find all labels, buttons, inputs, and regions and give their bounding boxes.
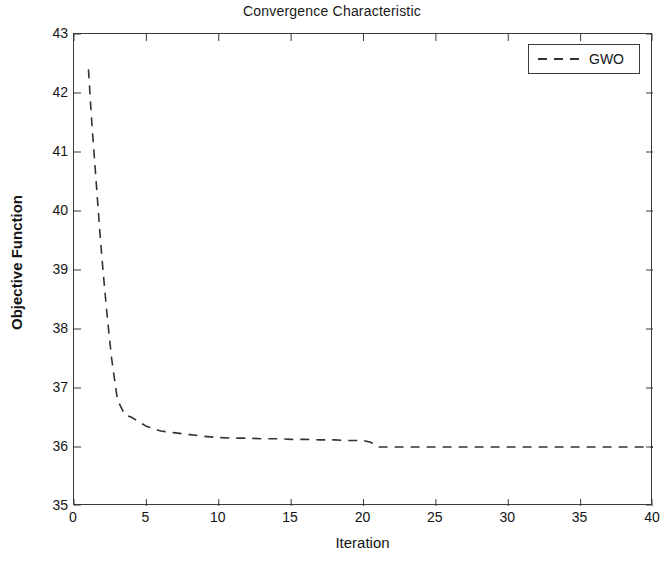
x-tick-label: 30 [485,510,529,524]
legend-line-sample-icon [537,53,583,65]
plot-canvas [74,34,653,506]
y-tick-label: 42 [28,85,68,99]
x-tick-label: 0 [51,510,95,524]
chart-title: Convergence Characteristic [0,3,664,19]
plot-area [73,33,652,505]
legend-box: GWO [528,44,640,74]
y-tick-label: 39 [28,262,68,276]
x-axis-tick-labels: 0510152025303540 [73,510,652,530]
y-tick-label: 40 [28,203,68,217]
y-tick-label: 37 [28,380,68,394]
x-tick-label: 5 [123,510,167,524]
y-tick-label: 41 [28,144,68,158]
y-tick-label: 38 [28,321,68,335]
x-tick-label: 40 [630,510,664,524]
x-tick-label: 15 [268,510,312,524]
x-tick-label: 25 [413,510,457,524]
axis-tick-marks [74,34,653,506]
x-tick-label: 10 [196,510,240,524]
legend-label-gwo: GWO [589,51,624,67]
y-tick-label: 36 [28,439,68,453]
x-tick-label: 20 [341,510,385,524]
y-tick-label: 43 [28,26,68,40]
y-axis-tick-labels: 434241403938373635 [22,0,68,563]
chart-figure: Convergence Characteristic Objective Fun… [0,0,664,563]
x-tick-label: 35 [558,510,602,524]
x-axis-label: Iteration [73,534,652,551]
data-series-gwo [88,69,653,447]
